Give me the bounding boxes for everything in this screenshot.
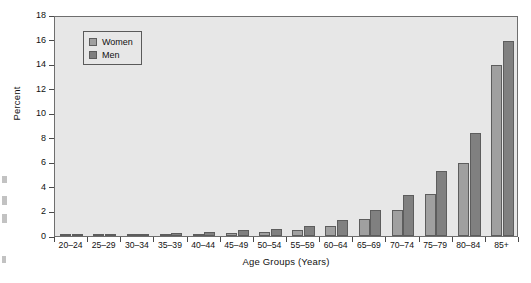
bar-chart-figure: Percent 024681012141618 Women Men 20–242… (0, 0, 531, 283)
bar-women-70_74 (392, 210, 403, 236)
x-tick-label: 85+ (485, 240, 518, 250)
bar-men-65_69 (370, 210, 381, 236)
x-tick-label: 40–44 (187, 240, 220, 250)
bar-women-60_64 (325, 226, 336, 236)
bar-women-20_24 (60, 234, 71, 236)
x-axis-title: Age Groups (Years) (54, 256, 518, 267)
x-tick-label: 80–84 (452, 240, 485, 250)
bar-men-35_39 (171, 233, 182, 236)
x-tick-label: 65–69 (352, 240, 385, 250)
y-tick-label: 14 (36, 59, 46, 70)
x-tick-label: 30–34 (120, 240, 153, 250)
x-tick-label: 25–29 (87, 240, 120, 250)
bar-women-65_69 (359, 219, 370, 236)
legend-swatch-women-icon (89, 38, 97, 46)
bar-men-80_84 (470, 133, 481, 236)
x-tick-label: 45–49 (220, 240, 253, 250)
plot-area: Women Men (54, 16, 518, 237)
bar-men-40_44 (204, 232, 215, 236)
bar-men-25_29 (105, 234, 116, 236)
bar-men-55_59 (304, 226, 315, 236)
legend: Women Men (83, 31, 142, 65)
x-tick-label: 70–74 (385, 240, 418, 250)
x-tick-label: 55–59 (286, 240, 319, 250)
y-tick-label: 10 (36, 108, 46, 119)
y-axis-title: Percent (11, 64, 22, 144)
x-tick-label: 60–64 (319, 240, 352, 250)
bar-men-30_34 (138, 234, 149, 236)
y-tick-label: 12 (36, 84, 46, 95)
x-tick-label: 35–39 (153, 240, 186, 250)
bar-men-45_49 (238, 230, 249, 236)
y-tick-label: 4 (41, 182, 46, 193)
x-tick-label: 75–79 (419, 240, 452, 250)
y-tick-label: 2 (41, 206, 46, 217)
bar-women-75_79 (425, 194, 436, 236)
x-tick-mark (518, 237, 519, 242)
bar-women-40_44 (193, 234, 204, 236)
y-tick-label: 16 (36, 35, 46, 46)
legend-item-men: Men (89, 48, 133, 61)
bar-men-75_79 (436, 171, 447, 236)
bar-women-85+ (491, 65, 502, 236)
bar-men-85+ (503, 41, 514, 236)
y-tick-label: 8 (41, 133, 46, 144)
y-tick-label: 18 (36, 10, 46, 21)
legend-label-men: Men (102, 50, 120, 60)
y-tick-label: 0 (41, 231, 46, 242)
legend-swatch-men-icon (89, 51, 97, 59)
x-tick-label: 50–54 (253, 240, 286, 250)
bar-women-55_59 (292, 230, 303, 236)
bar-women-50_54 (259, 232, 270, 236)
x-tick-label: 20–24 (54, 240, 87, 250)
bar-women-25_29 (93, 234, 104, 236)
legend-label-women: Women (102, 37, 133, 47)
y-tick-label: 6 (41, 157, 46, 168)
bar-women-80_84 (458, 163, 469, 236)
bar-women-45_49 (226, 233, 237, 236)
bar-women-30_34 (127, 234, 138, 236)
legend-item-women: Women (89, 35, 133, 48)
bar-men-50_54 (271, 229, 282, 236)
bar-men-60_64 (337, 220, 348, 236)
bar-men-20_24 (72, 234, 83, 236)
bar-women-35_39 (160, 234, 171, 236)
bar-men-70_74 (403, 195, 414, 236)
